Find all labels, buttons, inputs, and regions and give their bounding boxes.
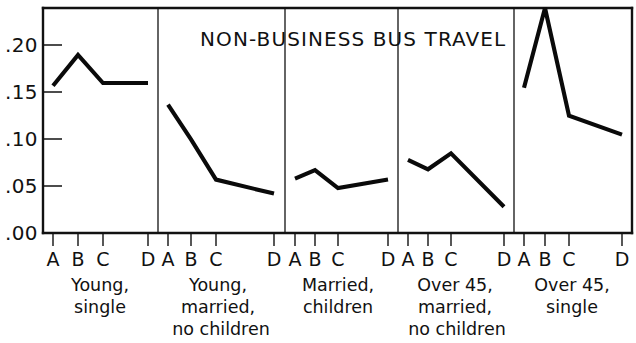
x-tick-label-p5-d: D (615, 248, 630, 270)
x-tick-label-p2-d: D (267, 248, 282, 270)
y-tick-label-0: .20 (5, 33, 38, 57)
x-tick-label-p2-a: A (162, 248, 175, 270)
x-tick-label-p4-c: C (444, 248, 457, 270)
x-tick-label-p1-b: B (71, 248, 84, 270)
x-tick-label-p1-c: C (96, 248, 109, 270)
group-label-5-line-2: single (546, 297, 598, 317)
x-tick-label-p3-c: C (331, 248, 344, 270)
chart-figure: .20 .15 .10 .05 .00 NON-BUSINESS BUS TRA… (0, 0, 636, 343)
x-tick-label-p4-b: B (421, 248, 434, 270)
group-label-2-line-3: no children (172, 319, 270, 339)
group-label-1-line-1: Young, (70, 275, 129, 295)
group-label-4-line-3: no children (408, 319, 506, 339)
x-tick-label-p3-b: B (308, 248, 321, 270)
x-tick-label-p5-b: B (538, 248, 551, 270)
x-tick-label-p4-a: A (402, 248, 415, 270)
x-tick-label-p5-a: A (518, 248, 531, 270)
y-tick-label-3: .05 (5, 174, 38, 198)
x-tick-label-p1-a: A (47, 248, 60, 270)
x-tick-label-p3-a: A (289, 248, 302, 270)
x-tick-label-p2-b: B (184, 248, 197, 270)
x-tick-label-p3-d: D (381, 248, 396, 270)
group-label-4-line-1: Over 45, (417, 275, 493, 295)
x-tick-label-p4-d: D (497, 248, 512, 270)
x-tick-label-p5-c: C (562, 248, 575, 270)
y-tick-label-4: .00 (5, 221, 38, 245)
group-label-3-line-1: Married, (302, 275, 374, 295)
group-label-5-line-1: Over 45, (534, 275, 610, 295)
y-tick-label-2: .10 (5, 127, 38, 151)
group-label-2-line-2: married, (181, 297, 255, 317)
y-tick-label-1: .15 (5, 80, 38, 104)
group-label-4-line-2: married, (418, 297, 492, 317)
group-label-1-line-2: single (74, 297, 126, 317)
chart-title: NON-BUSINESS BUS TRAVEL (200, 27, 506, 51)
group-label-2-line-1: Young, (188, 275, 247, 295)
x-tick-label-p2-c: C (209, 248, 222, 270)
chart-svg: .20 .15 .10 .05 .00 NON-BUSINESS BUS TRA… (0, 0, 636, 343)
x-tick-label-p1-d: D (141, 248, 156, 270)
group-label-3-line-2: children (303, 297, 373, 317)
